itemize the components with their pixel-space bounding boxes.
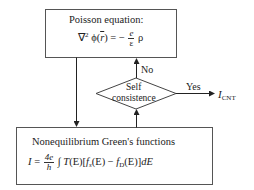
- poisson-equation: ∇2 ϕ(r) = − eε ρ: [78, 29, 143, 48]
- negf-equation: I = 4eh ∫ T(E)[fs(E) − fD(E)]dE: [28, 153, 153, 172]
- decision-label-line1: Self: [126, 82, 141, 92]
- no-label: No: [141, 64, 153, 75]
- yes-label: Yes: [186, 81, 201, 92]
- output-current-label: ICNT: [218, 88, 236, 102]
- poisson-fraction: eε: [128, 29, 134, 48]
- negf-fraction: 4eh: [44, 153, 55, 172]
- decision-label-line2: consistence: [112, 93, 156, 103]
- poisson-title: Poisson equation:: [69, 14, 143, 25]
- negf-title: Nonequilibrium Green's functions: [32, 136, 175, 147]
